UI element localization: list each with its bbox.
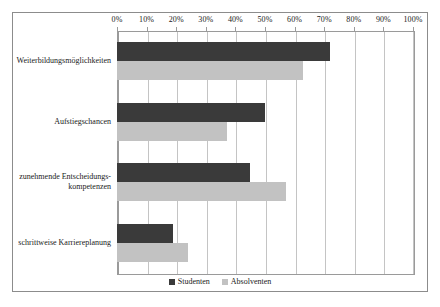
x-tick-label: 30% [198, 15, 213, 24]
bar-group [117, 42, 413, 80]
x-tick-label: 40% [228, 15, 243, 24]
x-tick-label: 80% [346, 15, 361, 24]
bar-group [117, 103, 413, 141]
x-tick-label: 60% [287, 15, 302, 24]
x-tick-label: 0% [112, 15, 123, 24]
category-label-line: schrittweise Karriereplanung [0, 238, 111, 248]
legend-swatch-icon [169, 279, 175, 285]
category-label: Weiterbildungsmöglichkeiten [0, 56, 111, 66]
bar-studenten [117, 42, 330, 61]
bar-studenten [117, 103, 265, 122]
x-tick-label: 100% [403, 15, 422, 24]
bar-absolventen [117, 122, 227, 141]
chart-figure: 0%10%20%30%40%50%60%70%80%90%100% Studen… [12, 12, 428, 292]
bar-group [117, 224, 413, 262]
legend-label: Studenten [178, 277, 210, 286]
x-tick-label: 70% [317, 15, 332, 24]
legend-swatch-icon [222, 279, 228, 285]
bar-absolventen [117, 243, 188, 262]
x-tick-label: 50% [258, 15, 273, 24]
bar-studenten [117, 224, 173, 243]
category-label: Aufstiegschancen [0, 117, 111, 127]
bar-studenten [117, 163, 250, 182]
bar-absolventen [117, 61, 303, 80]
x-tick-label: 90% [376, 15, 391, 24]
x-tick-label: 20% [169, 15, 184, 24]
category-label-line: Aufstiegschancen [0, 117, 111, 127]
bar-absolventen [117, 182, 286, 201]
category-label: schrittweise Karriereplanung [0, 238, 111, 248]
chart-legend: StudentenAbsolventen [13, 277, 427, 286]
category-label-line: zunehmende Entscheidungs- [0, 172, 111, 182]
legend-entry-studenten[interactable]: Studenten [169, 277, 210, 286]
legend-entry-absolventen[interactable]: Absolventen [222, 277, 271, 286]
legend-label: Absolventen [231, 277, 271, 286]
x-tick-label: 10% [139, 15, 154, 24]
category-label-line: Weiterbildungsmöglichkeiten [0, 56, 111, 66]
bar-group [117, 163, 413, 201]
x-axis: 0%10%20%30%40%50%60%70%80%90%100% [117, 15, 413, 29]
category-label: zunehmende Entscheidungs-kompetenzen [0, 172, 111, 192]
category-label-line: kompetenzen [0, 182, 111, 192]
